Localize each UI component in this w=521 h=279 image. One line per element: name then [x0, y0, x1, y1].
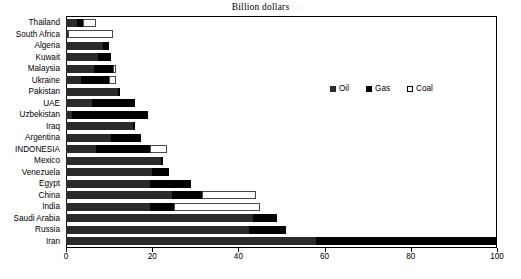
stacked-bar: [66, 191, 256, 199]
bar-segment-gas: [118, 88, 120, 96]
bar-segment-oil: [66, 134, 111, 142]
x-axis-tick-labels: 020406080100: [0, 252, 521, 266]
bar-row: [66, 40, 497, 52]
bar-row: [66, 236, 497, 248]
legend-item-oil: Oil: [330, 84, 349, 93]
bar-segment-gas: [133, 122, 135, 130]
bar-segment-gas: [103, 42, 109, 50]
bar-segment-gas: [81, 76, 109, 84]
y-axis-label: China: [0, 190, 63, 202]
y-axis-labels: ThailandSouth AfricaAlgeriaKuwaitMalaysi…: [0, 17, 63, 247]
bar-segment-oil: [66, 65, 94, 73]
y-axis-label: Saudi Arabia: [0, 213, 63, 225]
bar-row: [66, 224, 497, 236]
bar-segment-oil: [66, 145, 96, 153]
y-axis-label: Venezuela: [0, 167, 63, 179]
bar-row: [66, 178, 497, 190]
y-axis-label: Kuwait: [0, 52, 63, 64]
stacked-bar: [66, 145, 167, 153]
x-axis-tick-label: 0: [64, 252, 69, 261]
bar-segment-gas: [72, 111, 147, 119]
y-axis-label: Thailand: [0, 17, 63, 29]
bars-layer: [66, 17, 497, 247]
stacked-bar: [66, 214, 277, 222]
bar-row: [66, 213, 497, 225]
bar-row: [66, 63, 497, 75]
bar-segment-oil: [66, 88, 118, 96]
legend-swatch-icon: [366, 86, 372, 92]
bar-row: [66, 155, 497, 167]
legend-item-coal: Coal: [407, 84, 433, 93]
stacked-bar: [66, 30, 113, 38]
bar-segment-gas: [172, 191, 202, 199]
stacked-bar: [66, 180, 191, 188]
bar-row: [66, 190, 497, 202]
y-axis-label: India: [0, 201, 63, 213]
bar-row: [66, 144, 497, 156]
y-axis-label: Ukraine: [0, 75, 63, 87]
bar-segment-gas: [249, 226, 286, 234]
stacked-bar: [66, 226, 286, 234]
bar-segment-gas: [152, 168, 169, 176]
x-axis-tick-label: 60: [320, 252, 329, 261]
bar-row: [66, 132, 497, 144]
bar-segment-coal: [113, 65, 115, 73]
x-axis-tick-label: 40: [234, 252, 243, 261]
bar-segment-gas: [94, 65, 113, 73]
bar-segment-gas: [316, 237, 497, 245]
y-axis-label: Malaysia: [0, 63, 63, 75]
y-axis-label: Algeria: [0, 40, 63, 52]
bar-row: [66, 29, 497, 41]
bar-segment-oil: [66, 226, 249, 234]
bar-segment-oil: [66, 157, 161, 165]
y-axis-label: INDONESIA: [0, 144, 63, 156]
bar-segment-oil: [66, 76, 81, 84]
y-axis-label: Russia: [0, 224, 63, 236]
stacked-bar: [66, 99, 135, 107]
y-axis-label: Mexico: [0, 155, 63, 167]
bar-segment-coal: [150, 145, 167, 153]
bar-segment-gas: [92, 99, 135, 107]
bar-row: [66, 201, 497, 213]
legend-swatch-icon: [330, 86, 336, 92]
y-axis-label: South Africa: [0, 29, 63, 41]
y-axis-label: Uzbekistan: [0, 109, 63, 121]
y-axis-label: UAE: [0, 98, 63, 110]
legend-label: Coal: [416, 84, 433, 93]
stacked-bar: [66, 19, 96, 27]
legend-label: Oil: [339, 84, 349, 93]
stacked-bar: [66, 157, 163, 165]
stacked-bar: [66, 111, 148, 119]
bar-segment-coal: [68, 30, 113, 38]
stacked-bar: [66, 53, 111, 61]
stacked-bar: [66, 168, 169, 176]
bar-segment-oil: [66, 99, 92, 107]
bar-segment-coal: [174, 203, 260, 211]
bar-segment-oil: [66, 203, 150, 211]
bar-segment-oil: [66, 191, 172, 199]
bar-segment-oil: [66, 180, 150, 188]
bar-segment-oil: [66, 42, 103, 50]
stacked-bar: [66, 237, 497, 245]
bar-segment-oil: [66, 122, 133, 130]
bar-segment-coal: [202, 191, 256, 199]
y-axis-label: Iraq: [0, 121, 63, 133]
bar-row: [66, 167, 497, 179]
y-axis-label: Pakistan: [0, 86, 63, 98]
chart-legend: OilGasCoal: [330, 84, 433, 93]
stacked-bar: [66, 134, 141, 142]
bar-chart: Billion dollars ThailandSouth AfricaAlge…: [0, 0, 521, 279]
bar-segment-gas: [150, 203, 174, 211]
bar-row: [66, 109, 497, 121]
bar-segment-coal: [109, 76, 115, 84]
y-axis-label: Egypt: [0, 178, 63, 190]
bar-segment-gas: [150, 180, 191, 188]
stacked-bar: [66, 65, 116, 73]
stacked-bar: [66, 76, 116, 84]
bar-segment-oil: [66, 53, 98, 61]
bar-segment-gas: [253, 214, 277, 222]
bar-row: [66, 52, 497, 64]
x-axis-tick-label: 100: [490, 252, 504, 261]
bar-segment-oil: [66, 19, 77, 27]
bar-row: [66, 98, 497, 110]
